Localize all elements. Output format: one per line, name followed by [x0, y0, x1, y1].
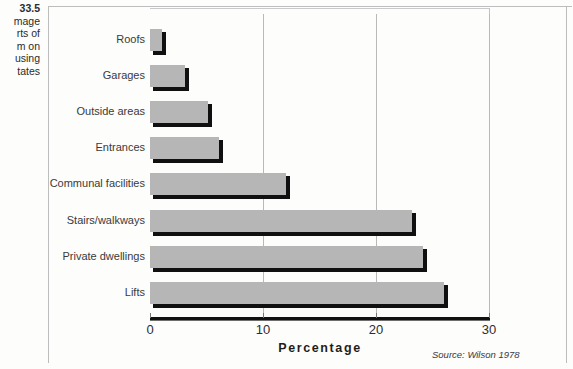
- bar-shadow-bottom: [153, 51, 166, 55]
- bar-row: [150, 65, 189, 87]
- bar-outside-areas: [150, 101, 208, 123]
- tickmark-10: [263, 313, 264, 318]
- x-tick-label-20: 20: [369, 322, 383, 337]
- tickmark-30: [489, 313, 490, 318]
- bar-row: [150, 101, 212, 123]
- category-label-private-dwellings: Private dwellings: [1, 250, 145, 262]
- category-axis-labels: RoofsGaragesOutside areasEntrancesCommun…: [0, 14, 145, 317]
- bar-shadow-bottom: [153, 268, 427, 272]
- category-label-outside-areas: Outside areas: [1, 105, 145, 117]
- bar-row: [150, 246, 427, 268]
- bar-shadow-bottom: [153, 304, 448, 308]
- gridline-30: [489, 14, 490, 317]
- bar-shadow-bottom: [153, 195, 290, 199]
- bar-shadow-bottom: [153, 87, 189, 91]
- category-label-garages: Garages: [1, 69, 145, 81]
- bar-shadow-bottom: [153, 232, 416, 236]
- tickmark-0: [150, 313, 151, 318]
- bar-row: [150, 282, 448, 304]
- x-tick-label-10: 10: [256, 322, 270, 337]
- bar-row: [150, 137, 223, 159]
- x-tick-label-30: 30: [482, 322, 496, 337]
- bar-shadow-bottom: [153, 159, 223, 163]
- caption-number: 33.5: [0, 2, 40, 15]
- bar-roofs: [150, 29, 162, 51]
- figure-frame-right-rule: [566, 6, 567, 363]
- bar-lifts: [150, 282, 444, 304]
- x-tick-label-0: 0: [146, 322, 153, 337]
- figure-page: 33.5 mage rts of m on using tates RoofsG…: [0, 0, 573, 369]
- bar-entrances: [150, 137, 219, 159]
- x-axis-line-underline: [150, 320, 490, 321]
- category-label-roofs: Roofs: [1, 33, 145, 45]
- bar-row: [150, 173, 290, 195]
- bar-garages: [150, 65, 185, 87]
- tickmark-20: [376, 313, 377, 318]
- bar-stairs-walkways: [150, 210, 412, 232]
- category-label-communal-facilities: Communal facilities: [1, 177, 145, 189]
- bar-shadow-bottom: [153, 123, 212, 127]
- bar-row: [150, 210, 416, 232]
- category-label-entrances: Entrances: [1, 141, 145, 153]
- plot-area: [150, 14, 489, 317]
- category-label-stairs-walkways: Stairs/walkways: [1, 214, 145, 226]
- bar-communal-facilities: [150, 173, 286, 195]
- category-label-lifts: Lifts: [1, 286, 145, 298]
- bar-private-dwellings: [150, 246, 423, 268]
- bar-row: [150, 29, 166, 51]
- source-note: Source: Wilson 1978: [432, 349, 520, 360]
- plot-top-border: [150, 8, 490, 9]
